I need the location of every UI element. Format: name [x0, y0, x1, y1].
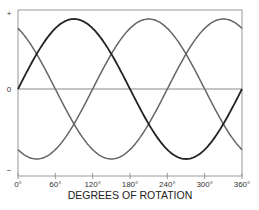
x-tick-label: 120° — [84, 180, 101, 189]
y-label-minus: − — [7, 166, 12, 175]
plot-border — [18, 10, 242, 176]
plot-frame — [18, 10, 242, 176]
x-tick-label: 60° — [49, 180, 61, 189]
x-axis-ticks: 0°60°120°180°240°300°360° — [14, 173, 250, 189]
x-axis-title: DEGREES OF ROTATION — [68, 189, 192, 201]
y-label-zero: 0 — [7, 85, 12, 94]
y-label-plus: + — [7, 9, 12, 18]
x-tick-label: 300° — [196, 180, 213, 189]
three-phase-sine-chart: 0°60°120°180°240°300°360° + 0 − DEGREES … — [0, 0, 259, 210]
x-tick-label: 180° — [122, 180, 139, 189]
x-tick-label: 360° — [234, 180, 251, 189]
y-axis-labels: + 0 − — [7, 9, 12, 175]
x-tick-label: 0° — [14, 180, 22, 189]
x-tick-label: 240° — [159, 180, 176, 189]
